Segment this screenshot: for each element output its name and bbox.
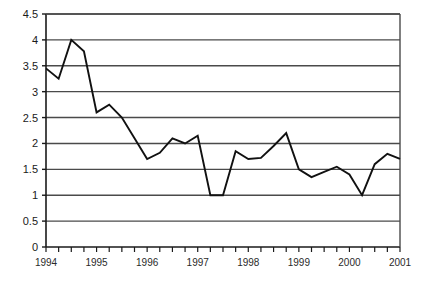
x-axis-labels: 19941995199619971998199920002001: [35, 257, 412, 268]
y-tick-label: 0: [32, 241, 38, 253]
chart-canvas: 00.511.522.533.544.519941995199619971998…: [0, 0, 422, 285]
y-tick-label: 2.5: [23, 112, 38, 124]
x-tick-label: 2000: [338, 257, 361, 268]
y-tick-label: 3.5: [23, 60, 38, 72]
x-tick-label: 1999: [288, 257, 311, 268]
x-tick-label: 1994: [35, 257, 58, 268]
y-tick-label: 1.5: [23, 163, 38, 175]
y-tick-label: 2: [32, 137, 38, 149]
axes: [46, 14, 400, 247]
y-tick-label: 0.5: [23, 215, 38, 227]
gridlines: [46, 14, 400, 221]
x-tick-label: 1997: [187, 257, 210, 268]
y-tick-label: 3: [32, 86, 38, 98]
x-tick-label: 1998: [237, 257, 260, 268]
x-tick-label: 2001: [389, 257, 412, 268]
y-tick-label: 4.5: [23, 8, 38, 20]
line-chart: 00.511.522.533.544.519941995199619971998…: [0, 0, 422, 285]
x-tick-label: 1995: [85, 257, 108, 268]
y-tick-label: 4: [32, 34, 38, 46]
x-tick-label: 1996: [136, 257, 159, 268]
y-tick-label: 1: [32, 189, 38, 201]
y-axis-ticks: 00.511.522.533.544.5: [23, 8, 46, 253]
